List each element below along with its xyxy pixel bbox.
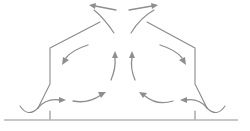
arrow-left-center-up <box>111 51 118 80</box>
right-canopy-outline <box>147 22 207 108</box>
airflow-diagram <box>0 0 250 131</box>
diagram-svg <box>0 0 250 131</box>
top-right-chimney <box>131 10 154 33</box>
top-left-chimney <box>94 10 114 33</box>
arrow-right-inflow <box>180 97 207 108</box>
arrow-left-lower-rising <box>73 92 106 102</box>
arrow-right-top-out <box>129 3 158 10</box>
arrow-right-lower-rising <box>139 92 173 103</box>
left-foot-curve <box>20 106 38 113</box>
arrow-left-recirc-down <box>62 45 88 65</box>
arrow-left-top-out <box>89 3 116 10</box>
arrow-right-center-up <box>129 51 135 80</box>
left-canopy-outline <box>38 22 100 108</box>
right-foot-curve <box>207 106 225 113</box>
arrow-right-recirc-down <box>160 45 186 65</box>
